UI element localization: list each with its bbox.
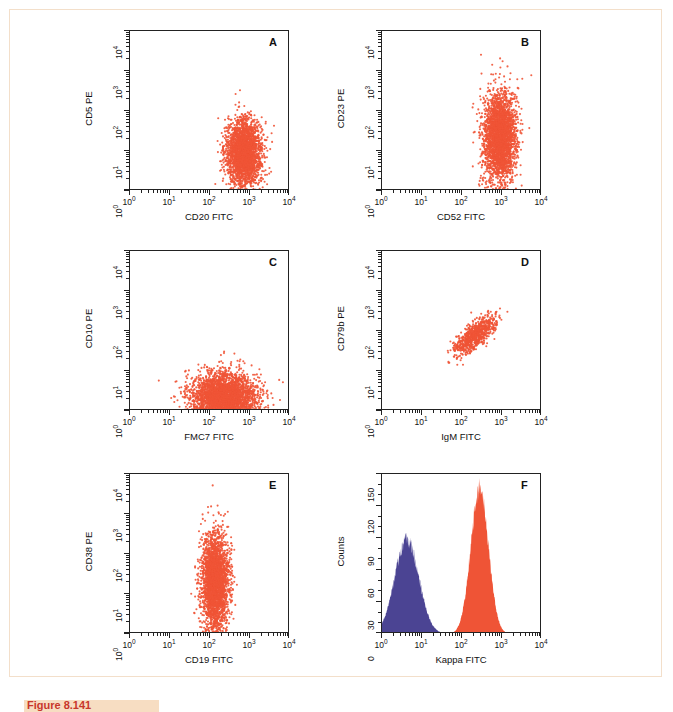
x-tick-label: 104 bbox=[534, 640, 547, 650]
y-major-tick bbox=[124, 150, 129, 151]
data-layer-b bbox=[382, 31, 541, 190]
x-minor-tick bbox=[205, 410, 206, 413]
y-minor-tick bbox=[126, 294, 129, 295]
x-minor-tick bbox=[433, 633, 434, 636]
x-axis-label: CD19 FITC bbox=[129, 654, 289, 665]
x-minor-tick bbox=[400, 190, 401, 193]
x-major-tick bbox=[381, 410, 382, 415]
y-minor-tick bbox=[378, 526, 381, 527]
x-tick-label: 103 bbox=[242, 640, 255, 650]
x-minor-tick bbox=[148, 190, 149, 193]
y-minor-tick bbox=[378, 74, 381, 75]
y-tick-label: 103 bbox=[114, 289, 124, 319]
x-minor-tick bbox=[163, 410, 164, 413]
panel-letter-e: E bbox=[269, 479, 277, 491]
y-minor-tick bbox=[378, 494, 381, 495]
y-minor-tick bbox=[378, 116, 381, 117]
x-minor-tick bbox=[240, 190, 241, 193]
x-minor-tick bbox=[205, 190, 206, 193]
y-minor-tick bbox=[378, 334, 381, 335]
y-minor-tick bbox=[378, 311, 381, 312]
y-major-tick bbox=[124, 70, 129, 71]
y-major-tick bbox=[376, 290, 381, 291]
x-major-tick bbox=[540, 410, 541, 415]
y-minor-tick bbox=[126, 332, 129, 333]
x-minor-tick bbox=[153, 410, 154, 413]
y-minor-tick bbox=[126, 318, 129, 319]
y-tick-label: 103 bbox=[366, 289, 376, 319]
x-tick-label: 101 bbox=[414, 640, 427, 650]
x-minor-tick bbox=[409, 633, 410, 636]
x-major-tick bbox=[249, 190, 250, 195]
x-minor-tick bbox=[449, 410, 450, 413]
panel-letter-c: C bbox=[269, 256, 277, 268]
x-minor-tick bbox=[228, 190, 229, 193]
x-tick-label: 102 bbox=[454, 417, 467, 427]
y-minor-tick bbox=[378, 342, 381, 343]
y-major-tick bbox=[124, 473, 129, 474]
x-minor-tick bbox=[157, 410, 158, 413]
x-tick-label: 104 bbox=[534, 417, 547, 427]
x-minor-tick bbox=[400, 633, 401, 636]
x-major-tick bbox=[501, 633, 502, 638]
y-tick-label: 102 bbox=[366, 329, 376, 359]
x-minor-tick bbox=[181, 410, 182, 413]
x-minor-tick bbox=[473, 190, 474, 193]
y-minor-tick bbox=[126, 562, 129, 563]
x-axis-label: FMC7 FITC bbox=[129, 431, 289, 442]
x-major-tick bbox=[381, 190, 382, 195]
x-minor-tick bbox=[277, 633, 278, 636]
x-minor-tick bbox=[415, 410, 416, 413]
x-minor-tick bbox=[445, 410, 446, 413]
y-minor-tick bbox=[378, 76, 381, 77]
y-tick-label: 102 bbox=[114, 109, 124, 139]
x-minor-tick bbox=[473, 633, 474, 636]
data-layer-c bbox=[130, 251, 289, 410]
y-minor-tick bbox=[378, 112, 381, 113]
y-minor-tick bbox=[378, 612, 381, 613]
x-minor-tick bbox=[283, 190, 284, 193]
y-minor-tick bbox=[126, 278, 129, 279]
y-minor-tick bbox=[126, 581, 129, 582]
y-minor-tick bbox=[126, 152, 129, 153]
x-minor-tick bbox=[455, 410, 456, 413]
y-tick-label: 100 bbox=[366, 408, 376, 438]
y-minor-tick bbox=[378, 382, 381, 383]
y-major-tick bbox=[376, 473, 381, 474]
x-minor-tick bbox=[237, 633, 238, 636]
y-minor-tick bbox=[378, 159, 381, 160]
y-minor-tick bbox=[378, 296, 381, 297]
y-minor-tick bbox=[378, 386, 381, 387]
y-minor-tick bbox=[126, 519, 129, 520]
y-minor-tick bbox=[378, 262, 381, 263]
y-minor-tick bbox=[126, 391, 129, 392]
y-major-tick bbox=[124, 290, 129, 291]
y-minor-tick bbox=[378, 119, 381, 120]
x-tick-label: 102 bbox=[202, 197, 215, 207]
x-minor-tick bbox=[203, 633, 204, 636]
x-tick-label: 103 bbox=[494, 417, 507, 427]
x-tick-label: 103 bbox=[242, 197, 255, 207]
x-minor-tick bbox=[237, 410, 238, 413]
y-minor-tick bbox=[126, 58, 129, 59]
x-minor-tick bbox=[532, 633, 533, 636]
y-minor-tick bbox=[126, 39, 129, 40]
x-minor-tick bbox=[485, 190, 486, 193]
y-minor-tick bbox=[126, 72, 129, 73]
y-minor-tick bbox=[126, 292, 129, 293]
y-minor-tick bbox=[378, 548, 381, 549]
x-minor-tick bbox=[485, 633, 486, 636]
x-minor-tick bbox=[415, 190, 416, 193]
panel-letter-b: B bbox=[521, 36, 529, 48]
y-major-tick bbox=[376, 505, 381, 506]
panel-letter-f: F bbox=[521, 479, 528, 491]
x-tick-label: 104 bbox=[282, 640, 295, 650]
y-minor-tick bbox=[126, 346, 129, 347]
panel-a: A100101102103104CD20 FITC100101102103104… bbox=[77, 22, 299, 238]
y-minor-tick bbox=[126, 51, 129, 52]
y-major-tick bbox=[376, 330, 381, 331]
y-minor-tick bbox=[378, 34, 381, 35]
y-minor-tick bbox=[126, 119, 129, 120]
x-major-tick bbox=[421, 633, 422, 638]
x-tick-label: 101 bbox=[162, 197, 175, 207]
